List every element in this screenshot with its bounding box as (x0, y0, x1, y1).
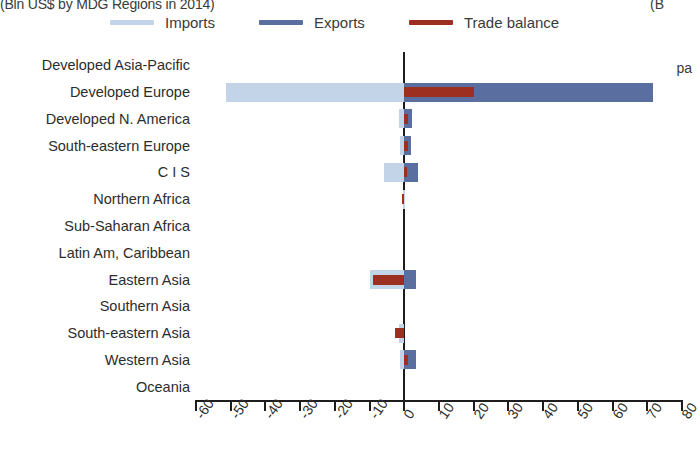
category-label: Western Asia (105, 353, 190, 368)
legend-item-trade-balance: Trade balance (409, 15, 559, 30)
legend-label: Exports (314, 15, 365, 30)
category-label: South-eastern Europe (48, 139, 190, 154)
value-axis: -60-50-40-30-20-1001020304050607080 (196, 400, 682, 456)
bar-trade-balance (404, 114, 408, 124)
bar-imports (226, 83, 404, 102)
zero-reference-line (403, 52, 405, 400)
legend-item-exports: Exports (259, 15, 365, 30)
bar-trade-balance (404, 87, 473, 97)
category-label: Sub-Saharan Africa (64, 219, 190, 234)
legend-swatch-icon (259, 20, 303, 25)
category-label: Oceania (136, 380, 190, 395)
category-axis-labels: Developed Asia-PacificDeveloped EuropeDe… (0, 52, 190, 400)
bar-trade-balance (404, 355, 408, 365)
category-label: Developed N. America (46, 112, 190, 127)
bar-trade-balance (373, 275, 405, 285)
legend-label: Trade balance (464, 15, 559, 30)
category-label: Developed Asia-Pacific (42, 58, 190, 73)
category-label: Southern Asia (100, 299, 190, 314)
legend-label: Imports (165, 15, 215, 30)
adjacent-panel-title-fragment: (B (650, 0, 690, 12)
legend-swatch-icon (110, 20, 154, 25)
category-label: Latin Am, Caribbean (59, 246, 190, 261)
bar-imports (384, 163, 404, 182)
adjacent-panel-text-fragment: pa (676, 60, 692, 76)
category-label: Eastern Asia (109, 273, 190, 288)
bar-trade-balance (404, 141, 408, 151)
legend-item-imports: Imports (110, 15, 215, 30)
bar-exports (404, 270, 416, 289)
category-label: C I S (158, 165, 190, 180)
chart-legend: ImportsExportsTrade balance (110, 15, 559, 30)
bar-trade-balance (404, 167, 407, 177)
axis-tick-label: 0 (401, 407, 417, 421)
bar-trade-balance (402, 194, 404, 204)
category-label: South-eastern Asia (67, 326, 190, 341)
legend-swatch-icon (409, 20, 453, 25)
bar-trade-balance (395, 328, 404, 338)
chart-title: (Bln US$ by MDG Regions in 2014) (0, 0, 340, 12)
plot-area (196, 52, 682, 400)
category-label: Developed Europe (70, 85, 190, 100)
category-label: Northern Africa (93, 192, 190, 207)
